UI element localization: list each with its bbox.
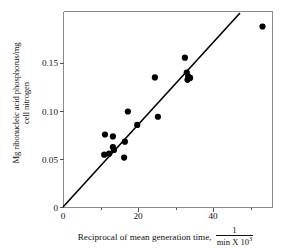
axis-frame [64,12,273,208]
data-point [259,23,265,29]
data-point [122,139,128,145]
data-point [182,55,188,61]
regression-line [63,13,240,207]
data-point [102,131,108,137]
data-point [134,122,140,128]
scatter-plot-figure: Mg ribonucleic acid phosphorus/mg cell n… [0,0,287,249]
data-point [111,147,117,153]
data-point-group [101,23,265,160]
y-axis-ticks [60,64,64,208]
plot-area [0,0,287,249]
data-point [152,74,158,80]
data-point [106,151,112,157]
data-point [110,133,116,139]
data-point [184,77,190,83]
data-point [155,114,161,120]
x-axis-ticks [102,208,252,212]
data-point [125,108,131,114]
data-point [121,154,127,160]
